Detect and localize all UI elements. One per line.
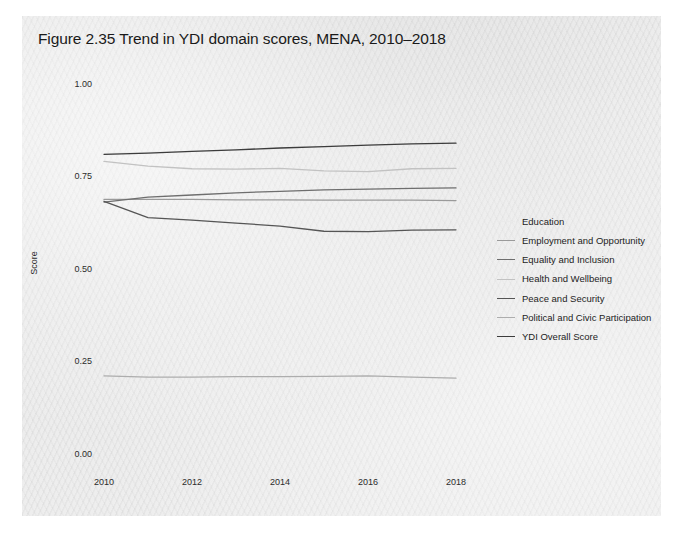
- legend-item[interactable]: Education: [497, 212, 667, 231]
- y-tick-label: 0.25: [74, 356, 92, 366]
- legend-item[interactable]: Health and Wellbeing: [497, 270, 667, 289]
- figure-page: Figure 2.35 Trend in YDI domain scores, …: [0, 0, 683, 537]
- legend-swatch-icon: [497, 298, 515, 299]
- y-tick-label: 0.75: [74, 171, 92, 181]
- legend-item-label: Education: [522, 217, 564, 227]
- legend-swatch-icon: [497, 259, 515, 260]
- series-lines: [104, 143, 456, 378]
- x-tick-label: 2012: [182, 477, 202, 487]
- legend-item-label: YDI Overall Score: [522, 332, 598, 342]
- legend-item[interactable]: YDI Overall Score: [497, 327, 667, 346]
- x-tick-labels: 2010 2012 2014 2016 2018: [94, 477, 466, 487]
- legend-item-label: Equality and Inclusion: [522, 255, 614, 265]
- legend-item[interactable]: Political and Civic Participation: [497, 308, 667, 327]
- legend-item-label: Peace and Security: [522, 294, 604, 304]
- legend-item[interactable]: Peace and Security: [497, 289, 667, 308]
- y-tick-labels: 1.00 0.75 0.50 0.25 0.00: [74, 79, 92, 459]
- legend-item[interactable]: Employment and Opportunity: [497, 231, 667, 250]
- y-tick-label: 1.00: [74, 79, 92, 89]
- legend-item-label: Employment and Opportunity: [522, 236, 645, 246]
- x-tick-label: 2018: [446, 477, 466, 487]
- legend-swatch-icon: [497, 221, 515, 222]
- legend-item-label: Political and Civic Participation: [522, 313, 651, 323]
- legend-item-label: Health and Wellbeing: [522, 274, 612, 284]
- legend-item[interactable]: Equality and Inclusion: [497, 250, 667, 269]
- x-tick-label: 2016: [358, 477, 378, 487]
- legend-swatch-icon: [497, 336, 515, 337]
- legend-swatch-icon: [497, 279, 515, 280]
- chart-legend: EducationEmployment and OpportunityEqual…: [497, 212, 667, 346]
- legend-swatch-icon: [497, 317, 515, 318]
- series-line: [104, 161, 456, 171]
- series-line: [104, 201, 456, 231]
- series-line: [104, 199, 456, 200]
- x-tick-label: 2010: [94, 477, 114, 487]
- y-tick-label: 0.50: [74, 264, 92, 274]
- x-tick-label: 2014: [270, 477, 290, 487]
- series-line: [104, 376, 456, 378]
- legend-swatch-icon: [497, 240, 515, 241]
- y-tick-label: 0.00: [74, 449, 92, 459]
